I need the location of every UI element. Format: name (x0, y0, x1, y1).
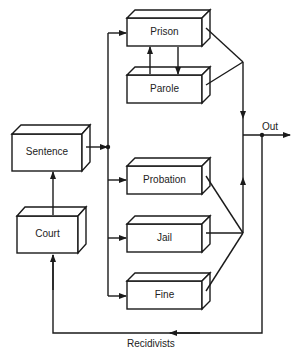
prison-out-line (206, 28, 243, 62)
out-junction-dot (260, 133, 264, 137)
parole-label: Parole (127, 84, 202, 94)
recidivists-label: Recidivists (127, 339, 175, 349)
fine-label: Fine (127, 290, 202, 300)
fine-out-line (206, 233, 243, 291)
sentence-label: Sentence (12, 147, 82, 157)
probation-label: Probation (127, 175, 202, 185)
junction-dot (106, 145, 110, 149)
jail-label: Jail (127, 233, 202, 243)
parole-out-line (206, 62, 243, 85)
prison-label: Prison (127, 27, 202, 37)
out-label: Out (262, 122, 278, 132)
probation-out-line (206, 176, 243, 233)
court-label: Court (17, 229, 78, 239)
